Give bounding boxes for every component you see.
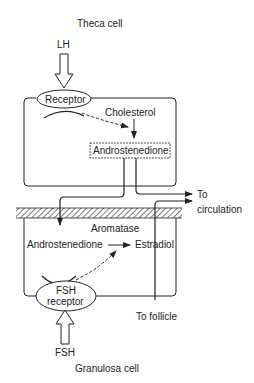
lh-label: LH (57, 39, 70, 50)
theca-cell-title: Theca cell (77, 18, 123, 29)
theca-granulosa-diagram: Theca cell LH Receptor Cholesterol Andro… (0, 0, 254, 383)
fsh-receptor-label-line2: receptor (47, 296, 84, 307)
circulation-label: circulation (197, 204, 242, 215)
fsh-hollow-arrow-icon (56, 310, 74, 344)
basement-membrane (16, 208, 182, 218)
androstenedione-theca-label: Androstenedione (93, 145, 169, 156)
fsh-label: FSH (55, 347, 75, 358)
fsh-dashed-activation-arrow (76, 251, 116, 280)
lh-hollow-arrow-icon (55, 54, 73, 88)
androstenedione-to-circulation-arrow (136, 158, 192, 194)
aromatase-label: Aromatase (91, 223, 140, 234)
receptor-label: Receptor (45, 94, 86, 105)
estradiol-label: Estradiol (135, 239, 174, 250)
granulosa-cell-title: Granulosa cell (75, 363, 139, 374)
to-label: To (197, 189, 208, 200)
fsh-receptor-label-line1: FSH (56, 285, 76, 296)
cholesterol-label: Cholesterol (105, 107, 156, 118)
receptor-binding-arc (44, 111, 84, 118)
androstenedione-granulosa-label: Androstenedione (27, 239, 103, 250)
to-follicle-label: To follicle (136, 311, 178, 322)
